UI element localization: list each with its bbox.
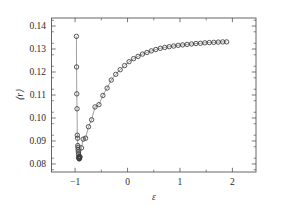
- data-point-marker: [118, 68, 122, 72]
- data-point-marker: [74, 65, 78, 69]
- y-axis-title: ⟨r⟩: [15, 89, 25, 101]
- data-point-marker: [136, 54, 140, 58]
- data-point-marker: [83, 136, 87, 140]
- data-point-marker: [89, 118, 93, 122]
- data-point-marker: [97, 102, 101, 106]
- data-point-marker: [212, 40, 216, 44]
- y-tick-label: 0.08: [29, 159, 46, 169]
- data-point-marker: [167, 45, 171, 49]
- data-point-marker: [114, 72, 118, 76]
- y-tick-label: 0.12: [29, 67, 46, 77]
- data-point-marker: [78, 155, 82, 159]
- data-point-marker: [122, 63, 126, 67]
- data-point-marker: [216, 40, 220, 44]
- data-point-marker: [101, 93, 105, 97]
- data-point-marker: [105, 86, 109, 90]
- figure-container: −1012 0.080.090.100.110.120.130.14 ε⟨r⟩: [0, 0, 286, 212]
- data-point-marker: [75, 92, 79, 96]
- data-point-marker: [198, 41, 202, 45]
- data-point-marker: [74, 34, 78, 38]
- data-point-marker: [127, 59, 131, 63]
- x-tick-label: 2: [230, 177, 235, 187]
- x-tick-label: 0: [125, 177, 130, 187]
- data-point-marker: [145, 50, 149, 54]
- scatter-plot: −1012 0.080.090.100.110.120.130.14 ε⟨r⟩: [0, 0, 286, 212]
- y-tick-label: 0.13: [29, 44, 46, 54]
- data-point-marker: [86, 125, 90, 129]
- y-tick-label: 0.11: [30, 90, 47, 100]
- data-point-marker: [149, 49, 153, 53]
- data-point-marker: [203, 41, 207, 45]
- data-point-marker: [140, 52, 144, 56]
- data-point-marker: [194, 41, 198, 45]
- data-point-marker: [79, 146, 83, 150]
- y-tick-label: 0.09: [29, 136, 46, 146]
- data-point-marker: [163, 45, 167, 49]
- data-point-marker: [180, 43, 184, 47]
- data-point-marker: [185, 42, 189, 46]
- data-markers: [74, 34, 229, 161]
- data-point-marker: [189, 42, 193, 46]
- data-series-group: [74, 34, 229, 161]
- x-tick-label: −1: [70, 177, 80, 187]
- data-point-marker: [171, 44, 175, 48]
- data-point-marker: [207, 40, 211, 44]
- x-tick-label: 1: [178, 177, 183, 187]
- data-point-marker: [75, 107, 79, 111]
- x-axis-title: ε: [152, 192, 156, 202]
- data-point-marker: [154, 47, 158, 51]
- data-point-marker: [109, 78, 113, 82]
- series-line-rising-branch: [80, 42, 227, 157]
- y-tick-label: 0.14: [29, 21, 46, 31]
- y-tick-label: 0.10: [29, 113, 46, 123]
- data-point-marker: [75, 136, 79, 140]
- data-point-marker: [158, 46, 162, 50]
- data-point-marker: [176, 43, 180, 47]
- data-point-marker: [131, 56, 135, 60]
- data-point-marker: [224, 40, 228, 44]
